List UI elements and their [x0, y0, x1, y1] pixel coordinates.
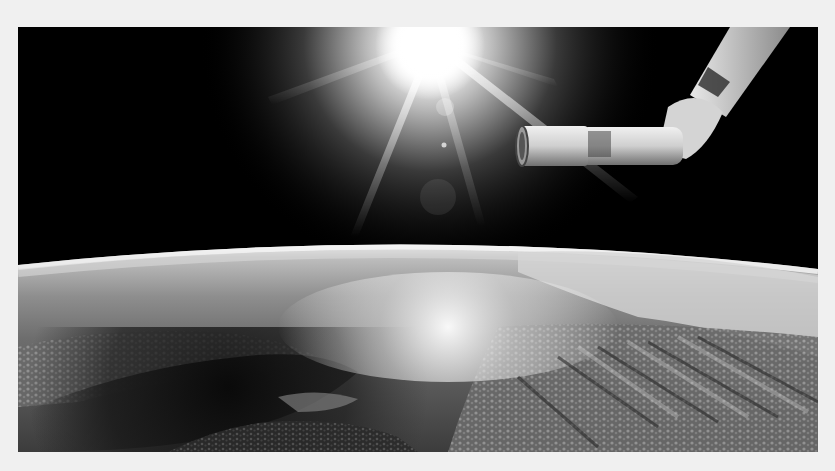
- lens-flare: [442, 143, 447, 148]
- space-photo: [18, 27, 818, 452]
- end-effector-opening: [519, 132, 525, 160]
- lens-flare: [436, 98, 454, 116]
- sun-glint: [278, 272, 618, 382]
- lens-flare: [420, 179, 456, 215]
- space-photo-svg: [18, 27, 818, 452]
- arm-end-effector: [520, 126, 588, 166]
- earth: [18, 244, 818, 452]
